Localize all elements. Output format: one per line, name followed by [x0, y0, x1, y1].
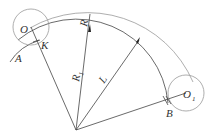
label-k: K [40, 39, 49, 51]
label-a: A [14, 52, 22, 64]
outer-arc [30, 13, 193, 82]
label-o1: O [183, 88, 191, 100]
label-r1-sub: 1 [77, 71, 85, 76]
label-b: B [166, 107, 173, 119]
label-o1-sub: 1 [192, 95, 196, 103]
label-l: L [95, 73, 109, 86]
label-o: O [20, 23, 28, 35]
inner-arc [18, 19, 168, 103]
diagram-canvas: O K A R R 1 L B O 1 [0, 0, 210, 132]
